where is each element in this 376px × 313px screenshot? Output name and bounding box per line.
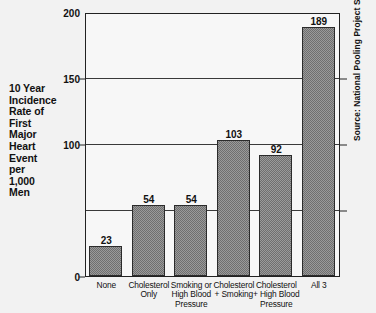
y-tick-mark — [79, 79, 85, 80]
y-tick-mark-right — [340, 145, 347, 146]
bar-value-label: 92 — [271, 144, 282, 155]
y-tick-label: 100 — [50, 140, 80, 151]
bar — [89, 246, 122, 276]
y-tick-label: 150 — [50, 74, 80, 85]
y-axis-title-line: per — [9, 164, 81, 176]
bar — [259, 155, 292, 276]
bar — [132, 205, 165, 276]
x-category-label: None — [97, 281, 116, 290]
x-category-label-line: Pressure — [171, 300, 212, 309]
x-category-label-line: + Smoking — [213, 290, 254, 299]
bar — [174, 205, 207, 276]
y-axis-title-line: Men — [9, 187, 81, 199]
source-credit: Source: National Pooling Project Study — [352, 0, 362, 141]
bar — [302, 27, 335, 276]
x-category-label-line: Only — [128, 290, 169, 299]
x-category-label: Cholesterol+ High BloodPressure — [253, 281, 299, 309]
y-tick-mark-right — [340, 211, 347, 212]
x-category-label-line: Pressure — [253, 300, 299, 309]
bar-value-label: 23 — [101, 235, 112, 246]
y-tick-label: 200 — [50, 8, 80, 19]
x-category-label: CholesterolOnly — [128, 281, 169, 300]
bar-value-label: 103 — [225, 129, 242, 140]
x-category-label: All 3 — [311, 281, 327, 290]
y-axis-title-line: 10 Year — [9, 83, 81, 95]
chart-canvas: 10 YearIncidenceRate ofFirstMajorHeartEv… — [0, 0, 376, 313]
y-tick-label: 0 — [50, 272, 80, 283]
plot-area — [85, 13, 340, 277]
x-category-label-line: All 3 — [311, 281, 327, 290]
y-tick-mark-right — [340, 79, 347, 80]
x-category-label-line: None — [97, 281, 116, 290]
y-tick-mark — [79, 277, 85, 278]
bar-value-label: 189 — [310, 16, 327, 27]
y-tick-mark — [79, 145, 85, 146]
bar-value-label: 54 — [143, 194, 154, 205]
bar — [217, 140, 250, 276]
bar-value-label: 54 — [186, 194, 197, 205]
x-category-label: Smoking orHigh BloodPressure — [171, 281, 212, 309]
x-category-label: Cholesterol+ Smoking — [213, 281, 254, 300]
